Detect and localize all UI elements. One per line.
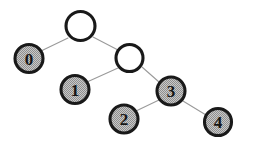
tree-node-root[interactable]: [66, 12, 95, 41]
edge-root-inner: [93, 37, 118, 50]
binary-tree-diagram: 01324: [0, 0, 256, 150]
node-circle-n2: [110, 105, 138, 133]
edge-inner-n3: [142, 67, 159, 82]
tree-node-n0[interactable]: 0: [15, 45, 43, 73]
node-circle-inner: [116, 45, 143, 72]
tree-node-inner[interactable]: [116, 45, 143, 72]
tree-nodes: 01324: [15, 12, 232, 136]
tree-node-n4[interactable]: 4: [205, 109, 232, 136]
node-circle-n1: [61, 76, 89, 104]
tree-canvas: 01324: [0, 0, 256, 150]
node-circle-n4: [205, 109, 232, 136]
node-circle-root: [66, 12, 95, 41]
node-circle-n3: [157, 77, 185, 105]
tree-node-n3[interactable]: 3: [157, 77, 185, 105]
edge-root-n0: [41, 38, 68, 51]
node-circle-n0: [15, 45, 43, 73]
edge-n3-n4: [183, 101, 206, 115]
tree-node-n2[interactable]: 2: [110, 105, 138, 133]
edge-inner-n1: [87, 68, 118, 82]
tree-node-n1[interactable]: 1: [61, 76, 89, 104]
edge-n3-n2: [136, 100, 159, 111]
